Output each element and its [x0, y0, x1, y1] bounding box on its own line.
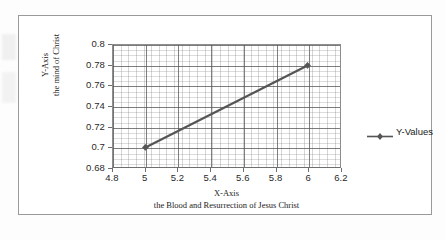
x-axis-tick-mark — [177, 168, 178, 172]
plot-area — [112, 44, 341, 168]
y-axis-tick-label: 0.8 — [59, 38, 105, 49]
chart-frame: Y-Axis the mind of Christ 0.680.70.720.7… — [18, 15, 432, 215]
x-axis-tick-mark — [276, 168, 277, 172]
y-axis-tick-label: 0.76 — [59, 79, 105, 90]
x-axis-tick-label: 6.2 — [321, 172, 361, 183]
x-axis-tick-mark — [243, 168, 244, 172]
x-axis-tick-mark — [210, 168, 211, 172]
y-axis-title-line1: Y-Axis — [40, 13, 51, 117]
x-axis-title: X-Axis the Blood and Resurrection of Jes… — [112, 188, 341, 211]
x-axis-title-line1: X-Axis — [112, 188, 341, 200]
data-series-y-values — [113, 45, 340, 168]
x-axis-tick-mark — [308, 168, 309, 172]
scanned-page: Y-Axis the mind of Christ 0.680.70.720.7… — [0, 0, 446, 240]
series-line — [145, 65, 307, 147]
chart-legend: Y-Values — [367, 126, 433, 137]
x-axis-tick-mark — [112, 168, 113, 172]
page-bleed-through-left — [2, 24, 16, 144]
legend-label-y-values: Y-Values — [396, 126, 433, 137]
x-axis-tick-mark — [145, 168, 146, 172]
y-axis-tick-label: 0.74 — [59, 100, 105, 111]
x-axis-tick-mark — [341, 168, 342, 172]
x-axis-title-line2: the Blood and Resurrection of Jesus Chri… — [112, 200, 341, 212]
y-axis-tick-label: 0.7 — [59, 141, 105, 152]
y-axis-tick-label: 0.78 — [59, 59, 105, 70]
legend-marker-icon — [367, 127, 393, 136]
y-axis-tick-label: 0.72 — [59, 121, 105, 132]
